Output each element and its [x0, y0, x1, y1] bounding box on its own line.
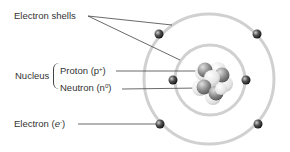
proton-close: ): [103, 65, 106, 76]
electron-icon: [254, 120, 263, 129]
electron-icon: [169, 76, 178, 85]
neutron-close: ): [108, 82, 111, 93]
electron-shells-text: Electron shells: [14, 10, 76, 21]
electron-icon: [155, 30, 164, 39]
neutron-label: Neutron (n0): [60, 82, 111, 93]
electron-icon: [156, 120, 165, 129]
nucleus-text: Nucleus: [15, 70, 49, 81]
nucleus-icon: [192, 62, 233, 105]
electron-label: Electron (e-): [14, 118, 65, 129]
proton-text: Proton (p: [60, 65, 99, 76]
electron-text: Electron (: [14, 118, 55, 129]
electron-icon: [253, 30, 262, 39]
nucleus-brace: [53, 63, 60, 89]
electron-icon: [242, 76, 251, 85]
nucleus-label: Nucleus: [15, 70, 49, 81]
neutron-text: Neutron (n: [60, 82, 105, 93]
electron-shells-label: Electron shells: [14, 10, 76, 21]
electron-close: ): [62, 118, 65, 129]
proton-label: Proton (p+): [60, 65, 106, 76]
